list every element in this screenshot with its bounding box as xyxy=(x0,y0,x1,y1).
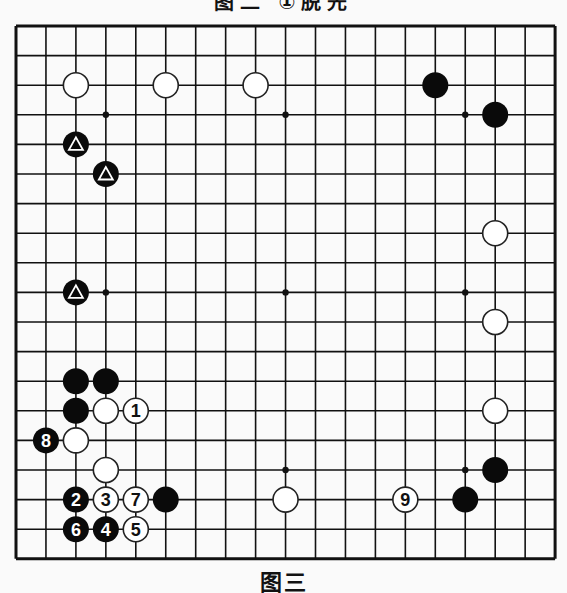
white-stone xyxy=(273,487,298,512)
star-point xyxy=(282,112,288,118)
star-point xyxy=(462,112,468,118)
black-stone xyxy=(63,279,89,305)
white-stone xyxy=(63,428,88,453)
white-stone: 1 xyxy=(123,398,148,423)
white-stone xyxy=(243,73,268,98)
star-point xyxy=(462,289,468,295)
black-stone xyxy=(63,398,89,424)
black-stone: 6 xyxy=(63,516,89,542)
black-stone xyxy=(452,487,478,513)
go-board: 182379645 xyxy=(0,0,567,593)
white-stone: 3 xyxy=(93,487,118,512)
white-stone: 5 xyxy=(123,517,148,542)
white-stone xyxy=(483,398,508,423)
white-stone xyxy=(153,73,178,98)
black-stone xyxy=(422,72,448,98)
black-stone xyxy=(63,368,89,394)
move-number: 8 xyxy=(41,431,51,451)
move-number: 3 xyxy=(101,490,111,510)
black-stone xyxy=(482,102,508,128)
star-point xyxy=(282,467,288,473)
white-stone: 9 xyxy=(393,487,418,512)
black-stone xyxy=(93,368,119,394)
white-stone xyxy=(483,310,508,335)
star-point xyxy=(103,289,109,295)
black-stone xyxy=(63,131,89,157)
white-stone xyxy=(63,73,88,98)
white-stone xyxy=(93,458,118,483)
move-number: 6 xyxy=(71,520,81,540)
black-stone: 8 xyxy=(33,427,59,453)
black-stone xyxy=(93,161,119,187)
move-number: 2 xyxy=(71,490,81,510)
figure-caption: 图三 xyxy=(0,564,567,593)
move-number: 1 xyxy=(131,401,141,421)
star-point xyxy=(103,112,109,118)
move-number: 4 xyxy=(101,520,111,540)
move-number: 7 xyxy=(131,490,141,510)
black-stone xyxy=(153,487,179,513)
stones: 182379645 xyxy=(33,72,508,542)
move-number: 5 xyxy=(131,520,141,540)
black-stone: 4 xyxy=(93,516,119,542)
black-stone: 2 xyxy=(63,487,89,513)
move-number: 9 xyxy=(400,490,410,510)
black-stone xyxy=(482,457,508,483)
white-stone xyxy=(483,221,508,246)
star-point xyxy=(462,467,468,473)
white-stone: 7 xyxy=(123,487,148,512)
star-point xyxy=(282,289,288,295)
white-stone xyxy=(93,398,118,423)
